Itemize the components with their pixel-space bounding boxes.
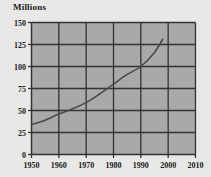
x-tick-label: 1950: [24, 161, 40, 170]
y-tick-label: 0: [22, 151, 26, 160]
x-tick-label: 1990: [133, 161, 149, 170]
line-chart-plot: 0255075100125150195019601970198019902000…: [0, 0, 211, 177]
y-tick-label: 75: [18, 85, 26, 94]
y-tick-label: 50: [18, 107, 26, 116]
x-tick-label: 1980: [106, 161, 122, 170]
y-tick-label: 100: [14, 63, 26, 72]
y-tick-label: 25: [18, 129, 26, 138]
y-tick-label: 150: [14, 19, 26, 28]
y-tick-label: 125: [14, 41, 26, 50]
x-tick-label: 1970: [78, 161, 94, 170]
x-tick-label: 1960: [51, 161, 67, 170]
x-tick-label: 2000: [160, 161, 176, 170]
x-tick-label: 2010: [188, 161, 204, 170]
chart-container: Millions 0255075100125150195019601970198…: [0, 0, 211, 177]
